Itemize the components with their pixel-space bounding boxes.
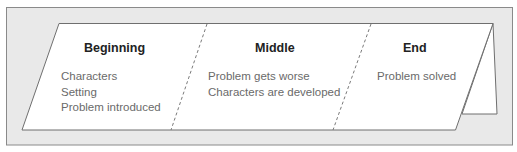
section-line: Characters xyxy=(61,69,161,85)
section-line: Characters are developed xyxy=(208,85,340,101)
section-heading-end: End xyxy=(403,41,427,55)
section-line: Problem solved xyxy=(377,69,456,85)
section-line: Problem gets worse xyxy=(208,69,340,85)
section-body-middle: Problem gets worse Characters are develo… xyxy=(208,69,340,100)
story-structure-diagram: Beginning Characters Setting Problem int… xyxy=(0,0,517,152)
section-line: Problem introduced xyxy=(61,100,161,116)
section-body-end: Problem solved xyxy=(377,69,456,85)
section-heading-middle: Middle xyxy=(255,41,295,55)
section-line: Setting xyxy=(61,85,161,101)
section-body-beginning: Characters Setting Problem introduced xyxy=(61,69,161,116)
section-heading-beginning: Beginning xyxy=(84,41,145,55)
